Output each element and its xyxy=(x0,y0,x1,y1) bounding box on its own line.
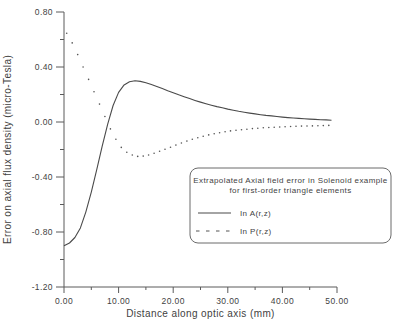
series-dotted-point xyxy=(159,151,161,153)
series-dotted-point xyxy=(301,125,303,127)
series-dotted-point xyxy=(137,156,139,158)
series-dotted-point xyxy=(170,146,172,148)
series-dotted-point xyxy=(132,154,134,156)
series-dotted-point xyxy=(88,79,90,81)
series-dotted-point xyxy=(121,147,123,149)
series-dotted-point xyxy=(230,130,232,132)
y-tick-label: 0.40 xyxy=(35,62,53,72)
series-dotted-point xyxy=(257,127,259,129)
series-dotted-point xyxy=(186,140,188,142)
chart-canvas: 0.800.400.00-0.40-0.80-1.200.0010.0020.0… xyxy=(0,0,405,334)
y-tick-label: -0.80 xyxy=(32,227,53,237)
x-tick-label: 40.00 xyxy=(271,296,294,306)
series-dotted-point xyxy=(246,128,248,130)
series-dotted-point xyxy=(115,138,117,140)
series-dotted-point xyxy=(224,131,226,133)
series-dotted-point xyxy=(241,129,243,131)
series-dotted-point xyxy=(175,144,177,146)
series-dotted-point xyxy=(328,125,330,127)
series-dotted-point xyxy=(197,137,199,139)
x-tick-label: 20.00 xyxy=(162,296,185,306)
series-dotted-point xyxy=(268,127,270,129)
series-dotted-point xyxy=(208,134,210,136)
series-dotted-point xyxy=(273,126,275,128)
series-dotted-point xyxy=(66,33,68,35)
series-dotted-point xyxy=(99,103,101,105)
series-dotted-point xyxy=(219,132,221,134)
x-tick-label: 30.00 xyxy=(216,296,239,306)
series-dotted-point xyxy=(263,127,265,129)
series-dotted-point xyxy=(104,116,106,118)
series-dotted-point xyxy=(77,54,79,56)
series-dotted-point xyxy=(142,155,144,157)
series-dotted-point xyxy=(192,139,194,141)
y-tick-label: -0.40 xyxy=(32,172,53,182)
x-axis-title: Distance along optic axis (mm) xyxy=(126,308,275,319)
x-tick-label: 0.00 xyxy=(55,296,73,306)
legend-title-line2: for first-order triangle elements xyxy=(229,186,351,195)
series-dotted-point xyxy=(312,125,314,127)
series-dotted-point xyxy=(284,126,286,128)
series-dotted-point xyxy=(82,66,84,68)
series-dotted-point xyxy=(290,126,292,128)
legend-entry-label: In P(r,z) xyxy=(240,227,272,236)
series-dotted-point xyxy=(213,133,215,135)
series-dotted-point xyxy=(148,154,150,156)
series-dotted-point xyxy=(71,42,73,44)
series-dotted-point xyxy=(279,126,281,128)
y-tick-label: 0.80 xyxy=(35,7,53,17)
x-tick-label: 50.00 xyxy=(325,296,348,306)
series-dotted-point xyxy=(306,125,308,127)
series-dotted-point xyxy=(126,152,128,154)
series-dotted-point xyxy=(252,128,254,130)
series-dotted-point xyxy=(164,148,166,150)
x-tick-label: 10.00 xyxy=(107,296,130,306)
y-tick-label: -1.20 xyxy=(32,282,53,292)
series-dotted-point xyxy=(235,130,237,132)
y-tick-label: 0.00 xyxy=(35,117,53,127)
series-dotted-point xyxy=(181,142,183,144)
series-dotted-point xyxy=(317,125,319,127)
y-axis-title: Error on axial flux density (micro-Tesla… xyxy=(2,55,13,244)
series-dotted-point xyxy=(202,135,204,137)
series-dotted-point xyxy=(153,153,155,155)
series-dotted-point xyxy=(295,126,297,128)
legend-entry-label: In A(r,z) xyxy=(240,209,271,218)
legend-title-line1: Extrapolated Axial field error in Soleno… xyxy=(193,176,387,185)
series-dotted-point xyxy=(110,128,112,130)
series-dotted-point xyxy=(93,91,95,93)
chart: 0.800.400.00-0.40-0.80-1.200.0010.0020.0… xyxy=(0,0,405,334)
series-dotted-point xyxy=(323,125,325,127)
